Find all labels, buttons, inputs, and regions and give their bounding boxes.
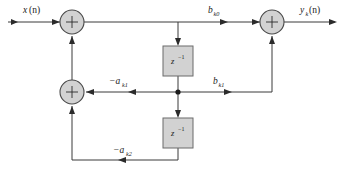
delay-upper-box[interactable]	[163, 46, 193, 76]
label-b-k0-subscript: k0	[214, 10, 221, 17]
label-input-base: x	[22, 5, 28, 15]
adder-input[interactable]	[60, 10, 84, 34]
tap-junction-dot	[175, 89, 180, 94]
label-b-k1-subscript: k1	[219, 81, 225, 88]
adder-feedback[interactable]	[60, 80, 84, 104]
delay-lower-box[interactable]	[163, 118, 193, 148]
label-b-k1: b k1	[213, 76, 224, 88]
arrow-riser-into-output-adder	[269, 36, 275, 44]
arrow-into-delay-lower	[175, 110, 181, 118]
label-a-k2-subscript: k2	[126, 150, 132, 157]
arrow-a-k1-direction	[128, 89, 136, 95]
arrow-bottom-riser-into-feedback-adder	[69, 106, 75, 114]
label-a-k1-base: −a	[109, 76, 120, 86]
delay-lower-label-exponent: −1	[178, 126, 184, 132]
arrow-into-input-adder	[52, 19, 60, 25]
label-output-base: y	[299, 5, 305, 15]
arrow-b-k0-direction	[220, 19, 228, 25]
arrow-riser-into-input-adder	[69, 36, 75, 44]
arrow-b-k1-direction	[224, 89, 232, 95]
label-output-paren: (n)	[309, 5, 320, 16]
label-a-k2-base: −a	[113, 145, 124, 155]
label-a-k2: −a k2	[113, 145, 132, 157]
signal-flow-diagram: z −1 z −1 x (n)	[0, 0, 343, 177]
label-a-k1: −a k1	[109, 76, 128, 88]
label-input: x (n)	[22, 5, 40, 16]
delay-upper[interactable]: z −1	[163, 46, 193, 76]
arrow-output-end	[329, 19, 337, 25]
label-b-k1-base: b	[213, 76, 218, 86]
arrow-into-output-adder	[252, 19, 260, 25]
delay-lower[interactable]: z −1	[163, 118, 193, 148]
delay-upper-label-base: z	[170, 56, 175, 66]
arrow-into-feedback-adder	[86, 89, 94, 95]
label-b-k0-base: b	[208, 5, 213, 15]
delay-lower-label-base: z	[170, 128, 175, 138]
diagram-canvas: z −1 z −1 x (n)	[0, 0, 343, 177]
arrow-input-start	[11, 19, 18, 25]
delay-upper-label-exponent: −1	[178, 54, 184, 60]
label-output: y k (n)	[299, 5, 320, 17]
arrow-into-delay-upper	[175, 38, 181, 46]
adder-output[interactable]	[260, 10, 284, 34]
label-input-paren: (n)	[29, 5, 40, 16]
label-b-k0: b k0	[208, 5, 220, 17]
arrow-a-k2-direction	[118, 157, 126, 163]
label-a-k1-subscript: k1	[122, 81, 128, 88]
